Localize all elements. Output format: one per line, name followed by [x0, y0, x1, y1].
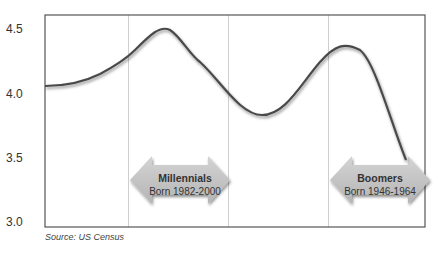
y-tick-label: 4.0 — [6, 87, 36, 101]
y-tick-label: 4.5 — [6, 22, 36, 36]
y-tick-label: 3.5 — [6, 151, 36, 165]
data-line — [45, 29, 406, 160]
boomers-subtitle: Born 1946-1964 — [344, 186, 416, 197]
chart-canvas — [0, 0, 447, 256]
source-note: Source: US Census — [45, 232, 124, 242]
millennials-label: Millennials Born 1982-2000 — [145, 172, 225, 198]
millennials-title: Millennials — [158, 172, 212, 184]
boomers-title: Boomers — [357, 172, 403, 184]
millennials-subtitle: Born 1982-2000 — [149, 186, 221, 197]
y-tick-label: 3.0 — [6, 215, 36, 229]
boomers-label: Boomers Born 1946-1964 — [340, 172, 420, 198]
